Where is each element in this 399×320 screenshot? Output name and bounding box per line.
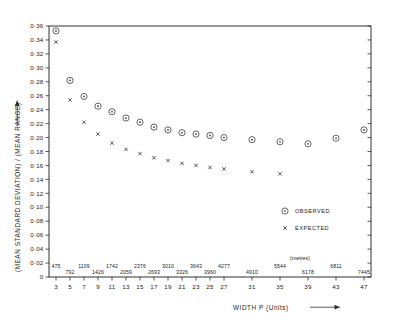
y-axis-tick-label: 0·20 [30,134,44,141]
observed-point-center [307,143,309,145]
metres-tick-label: 2376 [134,263,146,269]
x-axis-title: WIDTH P (Units) [233,304,289,312]
y-axis-tick-label: 0·24 [30,106,44,113]
observed-point-center [125,117,127,119]
observed-point-center [139,121,141,123]
x-axis-tick-label: 21 [178,283,186,290]
legend-observed-label: OBSERVED [295,208,330,214]
y-axis-tick-label: 0·18 [30,148,44,155]
y-axis-tick-label: 0·16 [30,162,44,169]
metres-tick-label: 3960 [204,269,216,275]
x-axis-arrow-head [335,305,341,310]
metres-tick-label: 6811 [330,263,342,269]
metres-tick-label: 4910 [246,269,258,275]
x-axis-tick-label: 15 [136,283,144,290]
x-axis-tick-label: 5 [68,283,72,290]
y-axis-tick-label: 0·30 [30,64,44,71]
metres-tick-label: 2693 [148,269,160,275]
metres-tick-label: 2059 [120,269,132,275]
observed-point-center [223,137,225,139]
y-axis-title: (MEAN STANDARD DEVIATION) / (MEAN RANGE) [14,103,22,272]
y-axis-tick-label: 0·26 [30,92,44,99]
observed-point-center [153,126,155,128]
metres-tick-label: 1109 [78,263,90,269]
metres-tick-label: 4277 [218,263,230,269]
legend-expected-label: EXPECTED [295,225,329,231]
observed-point-center [167,129,169,131]
metres-tick-label: 3326 [176,269,188,275]
observed-point-center [83,96,85,98]
plot-frame [49,26,371,277]
x-axis-tick-label: 3 [54,283,58,290]
observed-point-center [195,133,197,135]
observed-point-center [335,137,337,139]
x-axis-tick-label: 17 [150,283,158,290]
observed-point-center [251,139,253,141]
y-axis-tick-label: 0·02 [30,259,44,266]
metres-tick-label: 475 [52,263,61,269]
metres-tick-label: 1742 [106,263,118,269]
metres-tick-label: 6178 [302,269,314,275]
metres-caption: (metres) [290,255,310,261]
x-axis-tick-label: 11 [109,283,116,290]
metres-tick-label: 7445 [358,269,370,275]
chart-figure: 00·020·040·060·080·100·120·140·160·180·2… [0,0,399,320]
x-axis-tick-label: 47 [360,283,368,290]
x-axis-tick-label: 39 [304,283,312,290]
metres-tick-label: 5544 [274,263,286,269]
observed-point-center [111,111,113,113]
observed-point-center [69,80,71,82]
observed-point-center [97,105,99,107]
y-axis-tick-label: 0·22 [30,120,44,127]
x-axis-tick-label: 19 [164,283,172,290]
observed-point-center [209,135,211,137]
observed-point-center [363,129,365,131]
x-axis-tick-label: 43 [332,283,340,290]
y-axis-tick-label: 0·32 [30,50,44,57]
y-axis-tick-label: 0·12 [30,190,44,197]
metres-tick-label: 3643 [190,263,202,269]
metres-tick-label: 792 [66,269,75,275]
y-axis-tick-label: 0·14 [30,176,44,183]
x-axis-tick-label: 27 [220,283,228,290]
observed-point-center [279,141,281,143]
y-axis-tick-label: 0 [40,273,44,280]
y-axis-tick-label: 0·08 [30,217,44,224]
x-axis-tick-label: 23 [192,283,200,290]
y-axis-tick-label: 0·10 [30,203,44,210]
y-axis-tick-label: 0·34 [30,36,44,43]
x-axis-tick-label: 13 [122,283,130,290]
scatter-plot: 00·020·040·060·080·100·120·140·160·180·2… [0,0,399,320]
y-axis-tick-label: 0·04 [30,245,44,252]
x-axis-tick-label: 9 [96,283,100,290]
observed-point-center [55,30,57,32]
x-axis-tick-label: 25 [206,283,214,290]
metres-tick-label: 3010 [162,263,174,269]
legend-observed-marker-center [284,210,286,212]
y-axis-tick-label: 0·28 [30,78,44,85]
x-axis-tick-label: 35 [276,283,284,290]
x-axis-tick-label: 31 [248,283,256,290]
x-axis-tick-label: 7 [82,283,86,290]
metres-tick-label: 1426 [92,269,104,275]
y-axis-tick-label: 0·36 [30,22,44,29]
y-axis-tick-label: 0·06 [30,231,44,238]
observed-point-center [181,132,183,134]
